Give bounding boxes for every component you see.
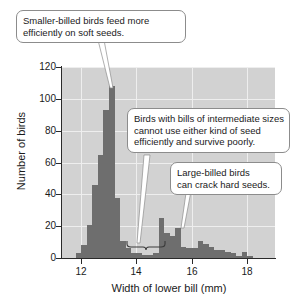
gridline-y-100 (62, 99, 275, 100)
y-tick-40 (56, 194, 62, 195)
gridline-x-12 (81, 67, 82, 258)
callout-large-billed[interactable]: Large-billed birds can crack hard seeds. (170, 162, 282, 195)
callout-large-billed-line-1: Large-billed birds (177, 167, 275, 179)
x-tick-label-16: 16 (177, 266, 207, 277)
gridline-y-120 (62, 67, 275, 68)
y-tick-label-60: 60 (26, 158, 56, 168)
x-tick-label-18: 18 (232, 266, 262, 277)
x-axis-title: Width of lower bill (mm) (55, 282, 283, 294)
x-tick-14 (136, 259, 137, 264)
y-tick-120 (56, 67, 62, 68)
y-tick-label-40: 40 (26, 189, 56, 199)
x-axis-line (61, 258, 276, 259)
y-tick-label-0: 0 (26, 253, 56, 263)
callout-intermediate-line-2: cannot use either kind of seed (134, 125, 283, 137)
y-tick-80 (56, 131, 62, 132)
callout-intermediate-line-1: Birds with bills of intermediate sizes (134, 113, 283, 125)
x-tick-18 (247, 259, 248, 264)
y-tick-0 (56, 258, 62, 259)
gridline-x-14 (136, 67, 137, 258)
callout-intermediate[interactable]: Birds with bills of intermediate sizes c… (127, 108, 290, 153)
callout-intermediate-line-3: efficiently and survive poorly. (134, 136, 283, 148)
y-tick-20 (56, 226, 62, 227)
y-tick-label-20: 20 (26, 221, 56, 231)
callout-large-billed-line-2: can crack hard seeds. (177, 179, 275, 191)
histogram-figure: 120 100 80 60 40 20 0 12 14 16 18 Width … (0, 0, 293, 304)
x-tick-16 (192, 259, 193, 264)
y-tick-label-80: 80 (26, 126, 56, 136)
x-tick-12 (81, 259, 82, 264)
x-tick-label-14: 14 (121, 266, 151, 277)
y-tick-60 (56, 163, 62, 164)
callout-smaller-billed-line-2: efficiently on soft seeds. (23, 27, 179, 39)
callout-smaller-billed[interactable]: Smaller-billed birds feed more efficient… (16, 10, 186, 43)
callout-smaller-billed-line-1: Smaller-billed birds feed more (23, 15, 179, 27)
y-axis-title: Number of birds (15, 86, 27, 216)
y-tick-label-120: 120 (26, 62, 56, 72)
y-tick-label-100: 100 (26, 94, 56, 104)
y-tick-100 (56, 99, 62, 100)
x-tick-label-12: 12 (66, 266, 96, 277)
